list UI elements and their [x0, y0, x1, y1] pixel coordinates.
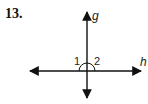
label-g: g — [92, 9, 99, 23]
label-angle-1: 1 — [74, 55, 80, 67]
label-h: h — [140, 55, 147, 69]
label-angle-2: 2 — [94, 55, 100, 67]
perpendicular-lines-diagram: g h 1 2 — [0, 0, 148, 104]
